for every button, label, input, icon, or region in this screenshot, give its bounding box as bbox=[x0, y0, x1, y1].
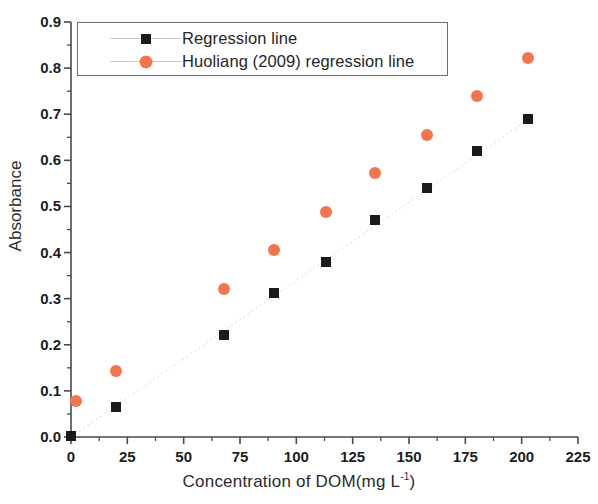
y-axis-tick-label: 0.1 bbox=[15, 382, 61, 399]
data-point bbox=[268, 244, 280, 256]
chart-legend: Regression line Huoliang (2009) regressi… bbox=[77, 22, 448, 76]
x-axis-tick-label: 200 bbox=[492, 448, 552, 465]
x-axis-tick-label: 175 bbox=[435, 448, 495, 465]
y-axis-title: Absorbance bbox=[6, 126, 26, 286]
legend-entry-regression-line: Regression line bbox=[78, 26, 297, 51]
x-axis-tick-label: 150 bbox=[379, 448, 439, 465]
data-point bbox=[522, 52, 534, 64]
data-point bbox=[218, 283, 230, 295]
x-axis-tick-label: 25 bbox=[97, 448, 157, 465]
data-point bbox=[219, 330, 229, 340]
data-point bbox=[110, 365, 122, 377]
data-point bbox=[320, 206, 332, 218]
data-point bbox=[370, 215, 380, 225]
legend-key-circle bbox=[110, 51, 182, 73]
x-axis-tick-label: 100 bbox=[266, 448, 326, 465]
y-axis-tick-label: 0.9 bbox=[15, 13, 61, 30]
data-point bbox=[369, 167, 381, 179]
x-axis-title: Concentration of DOM(mg L-1) bbox=[0, 472, 598, 492]
x-axis-tick-label: 50 bbox=[154, 448, 214, 465]
data-point bbox=[471, 90, 483, 102]
y-axis-tick-label: 0.2 bbox=[15, 336, 61, 353]
x-axis-tick-label: 0 bbox=[41, 448, 101, 465]
data-point bbox=[421, 129, 433, 141]
data-point bbox=[111, 402, 121, 412]
x-axis-tick-label: 75 bbox=[210, 448, 270, 465]
x-axis-title-tail: ) bbox=[410, 472, 416, 491]
square-marker-icon bbox=[141, 34, 151, 44]
data-point bbox=[523, 114, 533, 124]
y-axis-tick-label: 0.0 bbox=[15, 428, 61, 445]
legend-label-huoliang-regression-line: Huoliang (2009) regression line bbox=[182, 52, 414, 71]
y-axis-tick-label: 0.8 bbox=[15, 59, 61, 76]
x-axis-title-main: Concentration of DOM(mg L bbox=[183, 472, 401, 491]
circle-marker-icon bbox=[140, 55, 153, 68]
y-axis-tick-label: 0.7 bbox=[15, 105, 61, 122]
x-axis-tick-label: 225 bbox=[548, 448, 598, 465]
data-point bbox=[321, 257, 331, 267]
legend-entry-huoliang-regression-line: Huoliang (2009) regression line bbox=[78, 49, 414, 74]
legend-label-regression-line: Regression line bbox=[182, 29, 297, 48]
data-point bbox=[472, 146, 482, 156]
data-point bbox=[422, 183, 432, 193]
x-axis-tick-label: 125 bbox=[323, 448, 383, 465]
legend-key-square bbox=[110, 28, 182, 50]
data-point bbox=[70, 395, 82, 407]
y-axis-tick-label: 0.3 bbox=[15, 290, 61, 307]
scatter-chart: 0.00.10.20.30.40.50.60.70.80.9 025507510… bbox=[0, 0, 598, 504]
data-point bbox=[66, 431, 76, 441]
data-point bbox=[269, 288, 279, 298]
x-axis-title-exponent: -1 bbox=[400, 471, 409, 482]
